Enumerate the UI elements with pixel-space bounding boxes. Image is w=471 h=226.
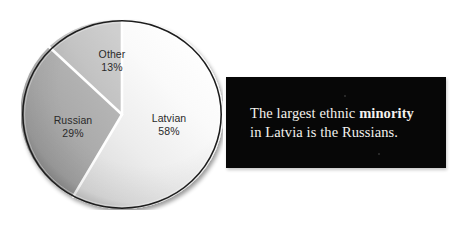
pie-label-latvian-value: 58%	[131, 125, 207, 138]
pie-label-other-value: 13%	[77, 61, 147, 74]
callout-line2: in Latvia is the Russians.	[250, 124, 398, 140]
callout-speck	[378, 153, 380, 155]
pie-label-other: Other 13%	[77, 48, 147, 73]
pie-label-other-name: Other	[77, 48, 147, 61]
callout-keyword-minority: minority	[359, 105, 414, 121]
figure-canvas: Other 13% Russian 29% Latvian 58% The la…	[0, 0, 471, 226]
callout-line1-lead: The largest ethnic	[250, 105, 359, 121]
callout-text: The largest ethnic minority in Latvia is…	[250, 104, 435, 142]
pie-chart: Other 13% Russian 29% Latvian 58%	[21, 19, 223, 210]
callout-box: The largest ethnic minority in Latvia is…	[226, 77, 446, 168]
callout-speck	[344, 95, 346, 97]
pie-label-latvian: Latvian 58%	[131, 112, 207, 137]
pie-label-russian-value: 29%	[34, 127, 112, 140]
pie-label-russian: Russian 29%	[34, 114, 112, 139]
pie-label-russian-name: Russian	[34, 114, 112, 127]
pie-label-latvian-name: Latvian	[131, 112, 207, 125]
